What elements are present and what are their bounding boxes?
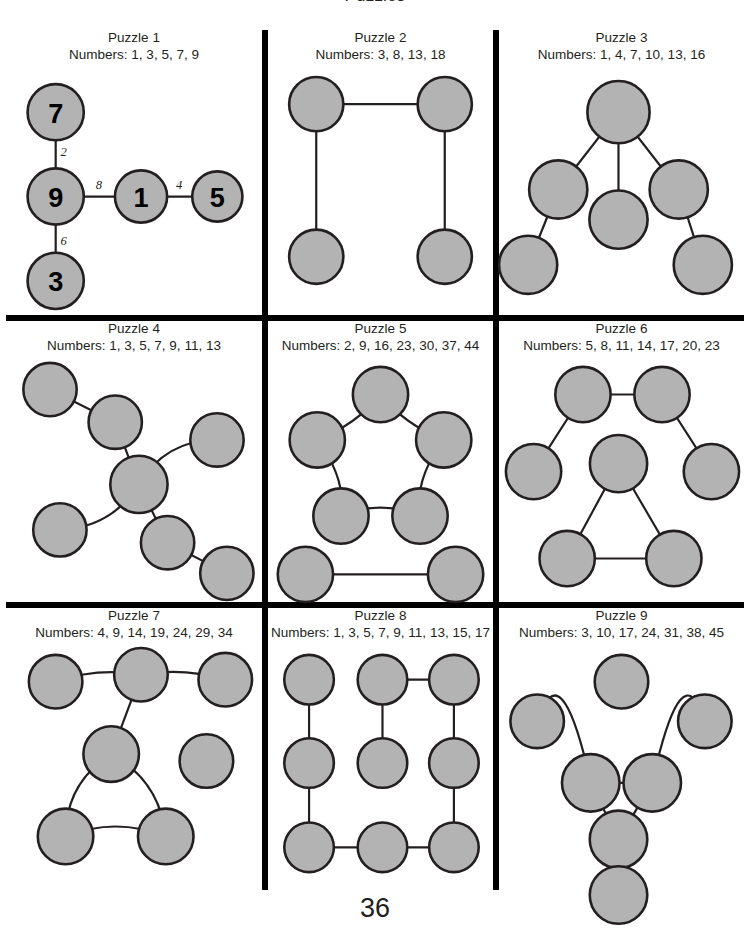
puzzle-4-node-6[interactable]	[141, 516, 194, 569]
puzzle-4-title: Puzzle 4	[6, 321, 262, 338]
puzzle-5-node-5[interactable]	[392, 488, 447, 543]
puzzle-7-node-2[interactable]	[114, 648, 168, 702]
puzzle-3-node-1[interactable]	[587, 81, 649, 143]
puzzle-1-cell: Puzzle 1Numbers: 1, 3, 5, 7, 9793152684	[6, 30, 262, 315]
puzzle-grid: Puzzle 1Numbers: 1, 3, 5, 7, 9793152684P…	[6, 30, 744, 890]
puzzle-4-node-2[interactable]	[89, 396, 142, 449]
puzzle-6-node-6[interactable]	[539, 531, 594, 586]
puzzle-7-node-4[interactable]	[83, 726, 139, 782]
puzzle-1-node-5-value: 5	[210, 182, 225, 213]
puzzle-6-node-2[interactable]	[634, 367, 689, 422]
puzzle-8-node-2[interactable]	[358, 655, 408, 705]
puzzle-3-node-4[interactable]	[650, 160, 708, 218]
puzzle-2-node-1[interactable]	[289, 77, 343, 131]
puzzle-2-node-4[interactable]	[418, 230, 472, 284]
puzzle-7-node-3[interactable]	[198, 653, 252, 707]
puzzle-9-node-5[interactable]	[623, 754, 681, 812]
puzzle-8-node-4[interactable]	[284, 738, 334, 788]
puzzle-8-caption: Puzzle 8Numbers: 1, 3, 5, 7, 9, 11, 13, …	[268, 608, 493, 642]
puzzle-4-node-3[interactable]	[190, 413, 243, 466]
puzzle-9-node-6[interactable]	[590, 811, 648, 869]
puzzle-5-node-2[interactable]	[290, 412, 345, 467]
puzzle-8-graph	[268, 642, 493, 890]
page-number: 36	[0, 893, 750, 924]
puzzle-1-numbers-label: Numbers: 1, 3, 5, 7, 9	[6, 47, 262, 64]
puzzle-7-node-6[interactable]	[38, 809, 94, 865]
puzzle-2-cell: Puzzle 2Numbers: 3, 8, 13, 18	[268, 30, 493, 315]
puzzle-8-node-7[interactable]	[284, 823, 334, 873]
puzzle-8-node-8[interactable]	[358, 823, 408, 873]
puzzle-9-caption: Puzzle 9Numbers: 3, 10, 17, 24, 31, 38, …	[499, 608, 744, 642]
puzzle-6-node-4[interactable]	[590, 435, 647, 492]
puzzle-5-graph	[268, 355, 493, 602]
puzzle-3-caption: Puzzle 3Numbers: 1, 4, 7, 10, 13, 16	[499, 30, 744, 64]
puzzle-1-caption: Puzzle 1Numbers: 1, 3, 5, 7, 9	[6, 30, 262, 64]
puzzle-9-node-2[interactable]	[510, 695, 564, 749]
puzzle-6-node-1[interactable]	[555, 367, 610, 422]
puzzle-7-node-1[interactable]	[29, 655, 83, 709]
puzzle-1-node-1-value: 7	[48, 98, 63, 129]
puzzle-3-cell: Puzzle 3Numbers: 1, 4, 7, 10, 13, 16	[499, 30, 744, 315]
puzzle-8-node-3[interactable]	[429, 655, 479, 705]
puzzle-1-graph: 793152684	[6, 64, 262, 315]
puzzle-3-title: Puzzle 3	[499, 30, 744, 47]
puzzle-9-cell: Puzzle 9Numbers: 3, 10, 17, 24, 31, 38, …	[499, 608, 744, 890]
puzzle-9-node-3[interactable]	[678, 695, 732, 749]
puzzle-6-graph	[499, 355, 744, 602]
puzzle-4-graph	[6, 355, 262, 602]
puzzle-2-node-2[interactable]	[418, 77, 472, 131]
puzzle-2-node-3[interactable]	[289, 230, 343, 284]
puzzle-4-node-4[interactable]	[110, 456, 167, 513]
puzzle-8-node-1[interactable]	[284, 655, 334, 705]
puzzle-1-edge-4-label: 4	[176, 178, 182, 192]
puzzle-2-caption: Puzzle 2Numbers: 3, 8, 13, 18	[268, 30, 493, 64]
puzzle-1-title: Puzzle 1	[6, 30, 262, 47]
puzzle-3-node-5[interactable]	[499, 236, 557, 294]
puzzle-1-node-2-value: 9	[48, 182, 63, 213]
puzzle-4-node-1[interactable]	[23, 363, 76, 416]
puzzle-8-node-6[interactable]	[429, 738, 479, 788]
puzzle-6-node-3[interactable]	[506, 444, 561, 499]
worksheet-page: Puzzles Puzzle 1Numbers: 1, 3, 5, 7, 979…	[0, 0, 750, 942]
puzzle-5-title: Puzzle 5	[268, 321, 493, 338]
puzzle-7-graph	[6, 642, 262, 890]
puzzle-5-node-1[interactable]	[353, 367, 408, 422]
puzzle-7-node-5[interactable]	[180, 734, 234, 788]
puzzle-6-node-5[interactable]	[684, 444, 739, 499]
puzzle-5-node-4[interactable]	[313, 488, 368, 543]
puzzle-7-node-7[interactable]	[138, 809, 194, 865]
puzzle-4-node-5[interactable]	[33, 503, 86, 556]
puzzle-2-numbers-label: Numbers: 3, 8, 13, 18	[268, 47, 493, 64]
puzzle-8-node-9[interactable]	[429, 823, 479, 873]
puzzle-8-numbers-label: Numbers: 1, 3, 5, 7, 9, 11, 13, 15, 17	[268, 625, 493, 642]
puzzle-7-cell: Puzzle 7Numbers: 4, 9, 14, 19, 24, 29, 3…	[6, 608, 262, 890]
puzzle-6-node-7[interactable]	[646, 531, 701, 586]
puzzle-9-node-1[interactable]	[595, 655, 649, 709]
puzzle-7-title: Puzzle 7	[6, 608, 262, 625]
puzzle-4-numbers-label: Numbers: 1, 3, 5, 7, 9, 11, 13	[6, 338, 262, 355]
puzzle-2-title: Puzzle 2	[268, 30, 493, 47]
puzzle-9-numbers-label: Numbers: 3, 10, 17, 24, 31, 38, 45	[499, 625, 744, 642]
puzzle-4-caption: Puzzle 4Numbers: 1, 3, 5, 7, 9, 11, 13	[6, 321, 262, 355]
puzzle-5-numbers-label: Numbers: 2, 9, 16, 23, 30, 37, 44	[268, 338, 493, 355]
puzzle-3-node-6[interactable]	[674, 236, 732, 294]
puzzle-6-caption: Puzzle 6Numbers: 5, 8, 11, 14, 17, 20, 2…	[499, 321, 744, 355]
puzzle-4-node-7[interactable]	[200, 547, 253, 600]
puzzle-5-node-3[interactable]	[416, 412, 471, 467]
puzzle-7-caption: Puzzle 7Numbers: 4, 9, 14, 19, 24, 29, 3…	[6, 608, 262, 642]
puzzle-2-graph	[268, 64, 493, 315]
puzzle-6-numbers-label: Numbers: 5, 8, 11, 14, 17, 20, 23	[499, 338, 744, 355]
puzzle-5-node-7[interactable]	[428, 547, 483, 602]
puzzle-6-cell: Puzzle 6Numbers: 5, 8, 11, 14, 17, 20, 2…	[499, 321, 744, 602]
puzzle-5-node-6[interactable]	[278, 547, 333, 602]
puzzle-3-graph	[499, 64, 744, 315]
puzzle-3-node-3[interactable]	[589, 191, 647, 249]
puzzle-9-node-4[interactable]	[562, 754, 620, 812]
puzzle-1-node-4-value: 1	[133, 182, 148, 213]
puzzle-3-node-2[interactable]	[529, 160, 587, 218]
puzzle-4-cell: Puzzle 4Numbers: 1, 3, 5, 7, 9, 11, 13	[6, 321, 262, 602]
puzzle-8-node-5[interactable]	[358, 738, 408, 788]
puzzle-5-cell: Puzzle 5Numbers: 2, 9, 16, 23, 30, 37, 4…	[268, 321, 493, 602]
puzzle-1-edge-3-label: 8	[96, 178, 103, 192]
puzzle-7-numbers-label: Numbers: 4, 9, 14, 19, 24, 29, 34	[6, 625, 262, 642]
